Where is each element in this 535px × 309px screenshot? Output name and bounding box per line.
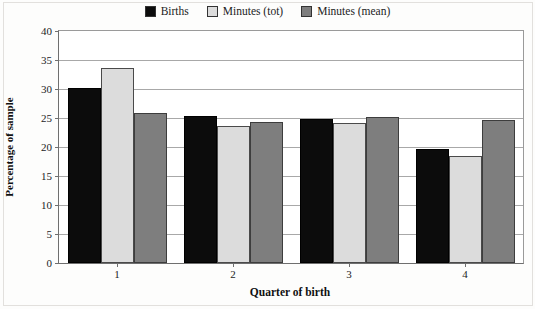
y-tick-label: 25 [41,112,52,124]
y-tick-label: 0 [47,257,53,269]
bar-births-q2 [184,116,217,263]
bar-minutes-mean-q2 [250,122,283,263]
chart-legend: BirthsMinutes (tot)Minutes (mean) [0,6,535,18]
y-tick-mark [55,31,59,32]
y-tick-mark [55,60,59,61]
y-tick-mark [55,118,59,119]
y-tick-mark [55,205,59,206]
bar-minutes-tot-q3 [333,123,366,263]
legend-item-1: Minutes (tot) [207,6,283,18]
x-tick-label: 2 [230,268,236,280]
plot-area: 05101520253035401234 [58,30,524,264]
y-tick-label: 5 [47,228,53,240]
y-tick-mark [55,234,59,235]
y-axis-title: Percentage of sample [3,97,15,196]
y-tick-label: 35 [41,54,52,66]
bar-births-q1 [68,88,101,263]
x-tick-mark [349,263,350,267]
gridline [59,60,523,61]
x-tick-label: 1 [114,268,120,280]
legend-item-0: Births [145,6,189,18]
legend-label: Births [161,6,189,18]
y-tick-label: 40 [41,25,52,37]
y-tick-label: 20 [41,141,52,153]
bar-minutes-mean-q4 [482,120,515,263]
bar-births-q3 [300,119,333,263]
bar-minutes-tot-q1 [101,68,134,263]
bar-minutes-mean-q1 [134,113,167,263]
legend-swatch-icon [145,6,156,17]
legend-item-2: Minutes (mean) [301,6,390,18]
bar-minutes-mean-q3 [366,117,399,263]
x-tick-mark [465,263,466,267]
y-tick-mark [55,176,59,177]
x-tick-mark [233,263,234,267]
legend-label: Minutes (tot) [223,6,283,18]
x-tick-mark [117,263,118,267]
legend-swatch-icon [301,6,312,17]
y-tick-mark [55,89,59,90]
bar-chart-figure: BirthsMinutes (tot)Minutes (mean) Percen… [0,0,535,309]
legend-swatch-icon [207,6,218,17]
y-tick-label: 15 [41,170,52,182]
x-axis-title: Quarter of birth [58,286,522,298]
legend-label: Minutes (mean) [317,6,390,18]
bar-births-q4 [416,149,449,263]
bar-minutes-tot-q4 [449,156,482,263]
y-tick-label: 30 [41,83,52,95]
y-tick-label: 10 [41,199,52,211]
x-tick-label: 4 [462,268,468,280]
x-tick-label: 3 [346,268,352,280]
y-tick-mark [55,263,59,264]
y-tick-mark [55,147,59,148]
bar-minutes-tot-q2 [217,126,250,263]
